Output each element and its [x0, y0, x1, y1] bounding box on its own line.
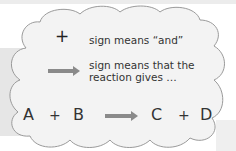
product-c: C	[151, 106, 162, 124]
reaction-arrow-icon	[105, 114, 132, 118]
plus-sign-1: +	[49, 106, 61, 124]
reactant-b: B	[73, 106, 84, 124]
arrow-meaning-line2: reaction gives …	[89, 71, 177, 83]
product-d: D	[200, 106, 212, 124]
reactant-a: A	[23, 106, 34, 124]
arrow-icon	[48, 69, 74, 73]
plus-sign-icon: +	[55, 27, 69, 45]
plus-sign-2: +	[178, 106, 190, 124]
plus-meaning-text: sign means “and”	[89, 34, 183, 46]
arrow-meaning-line1: sign means that the	[89, 59, 195, 71]
